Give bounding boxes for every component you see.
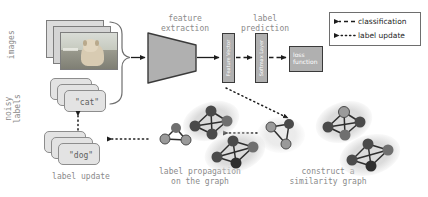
diagram-canvas: images noisy labels "cat" "dog" label up… (0, 0, 428, 197)
dnn-trapezoid (148, 33, 196, 83)
input-grouping-brace (110, 22, 130, 104)
connector-overlay (0, 0, 428, 197)
label-update-arrows (78, 88, 288, 139)
